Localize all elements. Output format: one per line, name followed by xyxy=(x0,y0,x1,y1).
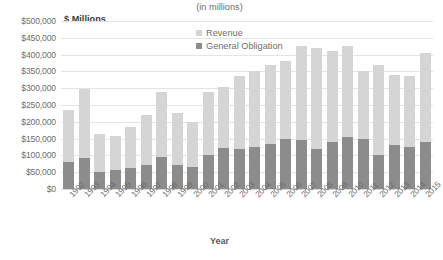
stacked-bar[interactable] xyxy=(373,65,384,189)
bar-segment-revenue[interactable] xyxy=(280,61,291,138)
bar-segment-revenue[interactable] xyxy=(234,76,245,148)
y-axis-tick-label: $150,000 xyxy=(21,134,56,144)
bar-slot xyxy=(123,21,139,189)
bar-segment-revenue[interactable] xyxy=(156,92,167,158)
bar-slot xyxy=(108,21,124,189)
x-axis-slot: 1993 xyxy=(77,190,93,232)
bar-segment-revenue[interactable] xyxy=(373,65,384,156)
x-axis-slot: 2007 xyxy=(294,190,310,232)
stacked-bar[interactable] xyxy=(203,92,214,189)
y-axis-tick-label: $450,000 xyxy=(21,33,56,43)
stacked-bar[interactable] xyxy=(389,75,400,189)
x-axis-slot: 2001 xyxy=(201,190,217,232)
stacked-bar[interactable] xyxy=(311,48,322,189)
bar-slot xyxy=(232,21,248,189)
stacked-bar[interactable] xyxy=(265,65,276,189)
bar-slot xyxy=(154,21,170,189)
bar-segment-revenue[interactable] xyxy=(249,71,260,147)
x-axis-slot: 2010 xyxy=(340,190,356,232)
bar-slot xyxy=(418,21,434,189)
x-axis-slot: 1995 xyxy=(108,190,124,232)
bar-slot xyxy=(356,21,372,189)
bar-slot xyxy=(278,21,294,189)
bar-segment-revenue[interactable] xyxy=(389,75,400,146)
bar-slot xyxy=(309,21,325,189)
bar-segment-revenue[interactable] xyxy=(63,110,74,162)
x-axis-slot: 2009 xyxy=(325,190,341,232)
bar-slot xyxy=(77,21,93,189)
bar-segment-revenue[interactable] xyxy=(358,71,369,138)
y-axis-tick-label: $250,000 xyxy=(21,100,56,110)
stacked-bar[interactable] xyxy=(296,46,307,189)
bar-segment-revenue[interactable] xyxy=(125,127,136,167)
y-axis-tick-label: $350,000 xyxy=(21,66,56,76)
bar-slot xyxy=(92,21,108,189)
bar-slot xyxy=(201,21,217,189)
stacked-bar[interactable] xyxy=(218,87,229,189)
x-axis-slot: 1996 xyxy=(123,190,139,232)
bar-segment-revenue[interactable] xyxy=(110,136,121,170)
bar-segment-revenue[interactable] xyxy=(172,113,183,165)
stacked-bar[interactable] xyxy=(234,76,245,189)
bar-segment-revenue[interactable] xyxy=(94,134,105,172)
bar-slot xyxy=(371,21,387,189)
bar-slot xyxy=(216,21,232,189)
bar-series-container xyxy=(61,21,433,189)
y-axis: $500,000$450,000$400,000$350,000$300,000… xyxy=(0,21,56,189)
bar-slot xyxy=(325,21,341,189)
x-axis-slot: 2011 xyxy=(356,190,372,232)
bar-segment-revenue[interactable] xyxy=(141,115,152,165)
stacked-bar[interactable] xyxy=(342,46,353,189)
stacked-bar[interactable] xyxy=(172,113,183,189)
bar-segment-revenue[interactable] xyxy=(311,48,322,149)
bar-slot xyxy=(402,21,418,189)
bar-slot xyxy=(61,21,77,189)
x-axis: 1992199319941995199619971998199920002001… xyxy=(61,190,433,232)
stacked-bar[interactable] xyxy=(63,110,74,189)
x-axis-slot: 1997 xyxy=(139,190,155,232)
bar-slot xyxy=(294,21,310,189)
bar-slot xyxy=(263,21,279,189)
stacked-bar[interactable] xyxy=(249,71,260,189)
stacked-bar[interactable] xyxy=(280,61,291,189)
bar-segment-revenue[interactable] xyxy=(420,53,431,142)
bar-slot xyxy=(387,21,403,189)
bar-segment-revenue[interactable] xyxy=(296,46,307,140)
stacked-bar[interactable] xyxy=(327,51,338,189)
bar-slot xyxy=(139,21,155,189)
x-axis-slot: 2014 xyxy=(402,190,418,232)
bar-segment-revenue[interactable] xyxy=(404,76,415,147)
stacked-bar[interactable] xyxy=(156,92,167,189)
bar-segment-revenue[interactable] xyxy=(79,89,90,158)
bar-segment-revenue[interactable] xyxy=(218,87,229,148)
x-axis-slot: 2008 xyxy=(309,190,325,232)
y-axis-tick-label: $50,000 xyxy=(26,167,56,177)
stacked-bar[interactable] xyxy=(404,76,415,189)
stacked-bar[interactable] xyxy=(79,89,90,189)
x-axis-slot: 2004 xyxy=(247,190,263,232)
bar-segment-revenue[interactable] xyxy=(265,65,276,144)
x-axis-slot: 2000 xyxy=(185,190,201,232)
x-axis-slot: 1999 xyxy=(170,190,186,232)
bar-segment-revenue[interactable] xyxy=(327,51,338,142)
y-axis-tick-label: $400,000 xyxy=(21,50,56,60)
bar-segment-revenue[interactable] xyxy=(203,92,214,156)
chart-title: (in millions) xyxy=(0,2,439,12)
x-axis-slot: 1998 xyxy=(154,190,170,232)
x-axis-slot: 1992 xyxy=(61,190,77,232)
plot-area xyxy=(61,21,433,189)
stacked-bar[interactable] xyxy=(358,71,369,189)
bar-segment-revenue[interactable] xyxy=(342,46,353,137)
y-axis-tick-label: $200,000 xyxy=(21,117,56,127)
stacked-bar[interactable] xyxy=(420,53,431,189)
bar-slot xyxy=(170,21,186,189)
stacked-bar[interactable] xyxy=(187,122,198,189)
x-axis-slot: 2003 xyxy=(232,190,248,232)
stacked-bar[interactable] xyxy=(141,115,152,189)
x-axis-slot: 1994 xyxy=(92,190,108,232)
y-axis-tick-label: $0 xyxy=(47,184,56,194)
bar-segment-revenue[interactable] xyxy=(187,122,198,167)
y-axis-tick-label: $500,000 xyxy=(21,16,56,26)
x-axis-slot: 2002 xyxy=(216,190,232,232)
